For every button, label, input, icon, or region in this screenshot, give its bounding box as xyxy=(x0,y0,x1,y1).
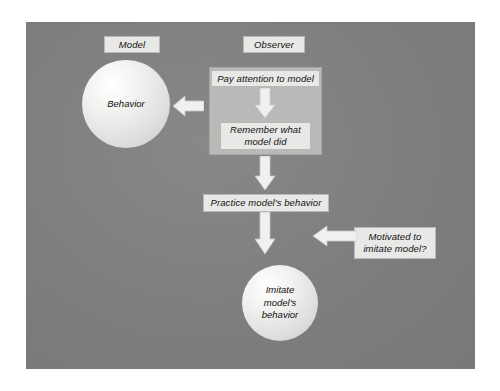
node-imitate-line-3: behavior xyxy=(262,309,298,321)
node-remember-what-model-did: Remember what model did xyxy=(220,122,311,150)
arrow-down-icon-practice-to-imitate xyxy=(254,212,276,254)
node-motivated-line-1: Motivated to xyxy=(369,231,422,243)
diagram-figure: Model Observer Behavior Pay attention to… xyxy=(0,0,500,391)
node-behavior-label: Behavior xyxy=(107,98,145,110)
node-imitate-models-behavior-circle: Imitate model's behavior xyxy=(242,265,318,341)
node-pay-attention-to-model: Pay attention to model xyxy=(211,70,320,87)
diagram-background-panel: Model Observer Behavior Pay attention to… xyxy=(26,22,475,369)
node-motivated-to-imitate-model: Motivated to imitate model? xyxy=(354,227,436,259)
node-imitate-line-2: model's xyxy=(264,297,296,309)
node-behavior-circle: Behavior xyxy=(82,60,170,148)
node-practice-models-behavior: Practice model's behavior xyxy=(203,194,329,212)
node-remember-line-1: Remember what xyxy=(230,124,301,136)
node-motivated-line-2: imitate model? xyxy=(363,243,426,255)
arrow-left-icon-to-behavior xyxy=(173,95,204,117)
label-model-tag: Model xyxy=(104,36,160,53)
label-observer-tag: Observer xyxy=(243,36,305,53)
arrow-down-icon-remember-to-practice xyxy=(254,156,276,190)
node-remember-line-2: model did xyxy=(244,136,286,148)
arrow-down-icon-attention-to-remember xyxy=(254,88,276,118)
arrow-left-icon-motivated-to-flow xyxy=(313,225,357,247)
node-imitate-line-1: Imitate xyxy=(266,284,295,296)
